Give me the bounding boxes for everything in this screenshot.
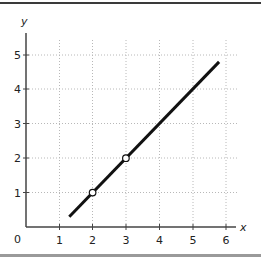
y-tick-label-4: 4 xyxy=(14,83,21,96)
x-tick-label-4: 4 xyxy=(156,234,163,247)
origin-label: 0 xyxy=(14,233,21,246)
x-tick-label-2: 2 xyxy=(89,234,96,247)
y-axis-label: y xyxy=(20,15,28,28)
x-tick-label-6: 6 xyxy=(223,234,230,247)
x-axis-label: x xyxy=(239,221,247,234)
line-chart: y x 0 1 2 3 4 5 6 1 2 3 4 5 xyxy=(0,0,261,257)
point-marker-3-2 xyxy=(123,155,130,162)
y-tick-label-2: 2 xyxy=(14,152,21,165)
x-tick-label-1: 1 xyxy=(56,234,63,247)
x-tick-label-5: 5 xyxy=(190,234,197,247)
y-tick-label-1: 1 xyxy=(14,187,21,200)
grid xyxy=(26,40,238,227)
x-tick-label-3: 3 xyxy=(123,234,130,247)
y-tick-label-5: 5 xyxy=(14,49,21,62)
y-tick-label-3: 3 xyxy=(14,118,21,131)
point-marker-2-1 xyxy=(89,189,96,196)
